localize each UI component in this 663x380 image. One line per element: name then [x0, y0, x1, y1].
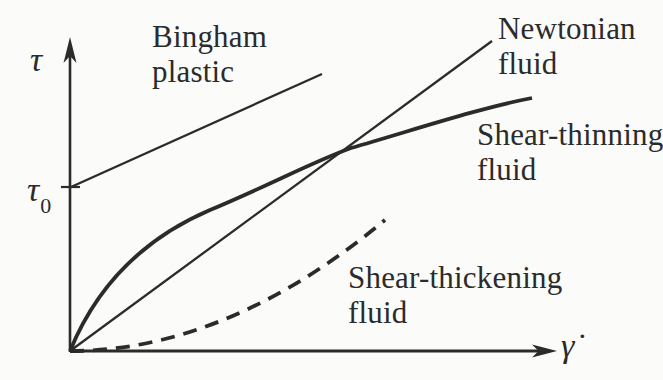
x-axis-label: γ̇: [561, 328, 574, 363]
tau-symbol: τ: [30, 41, 42, 78]
tau0-subscript: 0: [40, 193, 51, 218]
newtonian-fluid-label: Newtonian fluid: [498, 11, 636, 81]
shear-thinning-fluid-label-line1: Shear-thinning: [477, 117, 663, 152]
bingham-plastic-label: Bingham plastic: [152, 19, 267, 89]
shear-thinning-fluid-label: Shear-thinning fluid: [477, 117, 663, 187]
tau0-base: τ: [27, 171, 39, 208]
bingham-plastic-line: [71, 74, 322, 187]
y-axis-label: τ: [30, 42, 42, 77]
bingham-plastic-label-line1: Bingham: [152, 19, 267, 54]
newtonian-fluid-label-line1: Newtonian: [498, 11, 636, 46]
gamma-dot-symbol: γ̇: [561, 327, 574, 364]
rheology-diagram: τ τ0 γ̇ Bingham plastic Newtonian fluid …: [0, 0, 663, 380]
shear-thinning-fluid-label-line2: fluid: [477, 152, 663, 187]
shear-thickening-fluid-label-line1: Shear-thickening: [348, 260, 562, 295]
shear-thickening-fluid-label: Shear-thickening fluid: [348, 260, 562, 330]
bingham-plastic-label-line2: plastic: [152, 54, 267, 89]
yield-stress-label: τ0: [27, 172, 50, 207]
shear-thickening-fluid-label-line2: fluid: [348, 295, 562, 330]
newtonian-fluid-label-line2: fluid: [498, 46, 636, 81]
shear-thickening-curve: [70, 220, 385, 351]
